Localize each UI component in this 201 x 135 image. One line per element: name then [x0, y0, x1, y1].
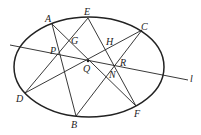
label-d: D: [15, 93, 24, 104]
label-r: R: [119, 57, 126, 68]
label-n: N: [108, 69, 117, 80]
label-h: H: [105, 36, 114, 47]
label-e: E: [83, 6, 90, 17]
label-q: Q: [83, 63, 91, 74]
label-p: P: [49, 45, 56, 56]
label-g: G: [71, 35, 78, 46]
geometry-diagram: A E C D B F P G Q H R N l: [0, 0, 201, 135]
line-l: [10, 45, 188, 80]
segment-ed: [25, 18, 88, 93]
label-b: B: [71, 119, 77, 130]
label-f: F: [133, 108, 141, 119]
point-q: [87, 60, 89, 62]
label-c: C: [141, 21, 148, 32]
label-l: l: [190, 73, 193, 84]
label-a: A: [44, 13, 52, 24]
